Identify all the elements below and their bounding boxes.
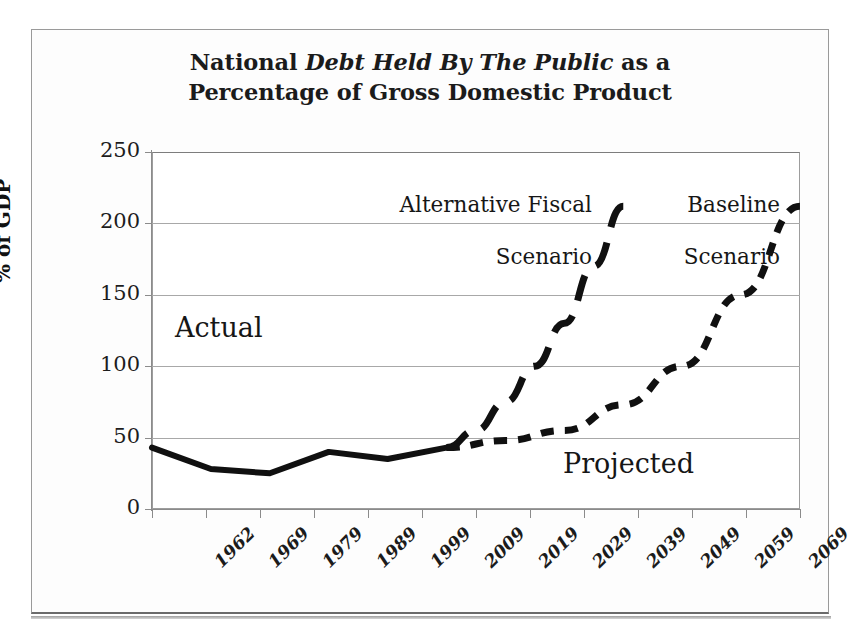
annotation-baseline-line1: Baseline [687, 192, 780, 217]
annotation-baseline-line2: Scenario [684, 244, 780, 269]
chart-page: National Debt Held By The Public as a Pe… [0, 0, 862, 643]
annotation-baseline-scenario: Baseline Scenario [630, 166, 780, 270]
annotation-actual: Actual [175, 312, 263, 343]
series-actual-line [152, 448, 447, 474]
annotation-alternative-line2: Scenario [496, 244, 592, 269]
annotation-alternative-fiscal-scenario: Alternative Fiscal Scenario [392, 166, 592, 270]
data-series-layer [0, 0, 862, 643]
annotation-alternative-line1: Alternative Fiscal [400, 192, 593, 217]
annotation-projected: Projected [563, 448, 694, 479]
